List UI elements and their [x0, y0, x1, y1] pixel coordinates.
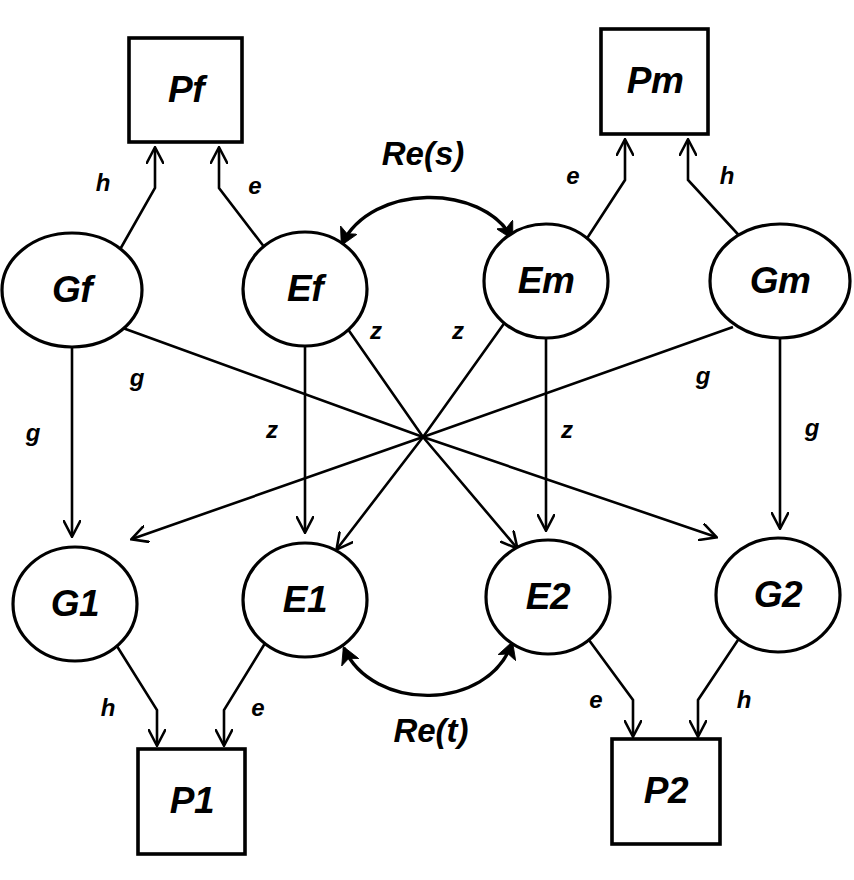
node-em-label: Em [518, 260, 575, 301]
edge-g2-p2 [698, 634, 742, 736]
node-pm[interactable]: Pm [601, 29, 708, 134]
path-label-e-em-pm: e [566, 162, 579, 189]
path-label-z-ef-e1: z [265, 416, 278, 443]
path-label-g-gm-g2: g [804, 414, 820, 441]
node-p1[interactable]: P1 [138, 749, 245, 854]
path-label-h-gm-pm: h [720, 162, 735, 189]
node-e1[interactable]: E1 [243, 543, 367, 657]
node-p2-label: P2 [644, 770, 689, 811]
node-pm-label: Pm [627, 60, 684, 101]
node-ef[interactable]: Ef [243, 232, 367, 346]
path-label-e-e2-p2: e [589, 686, 602, 713]
correlation-label-re-s: Re(s) [382, 135, 465, 172]
node-g2-label: G2 [754, 574, 803, 615]
edge-gm-pm [688, 140, 746, 243]
node-ef-label: Ef [287, 268, 327, 309]
path-label-h-gf-pf: h [96, 169, 111, 196]
node-p2[interactable]: P2 [612, 739, 720, 844]
path-label-g-gf-g2: g [129, 364, 145, 391]
correlation-label-re-t: Re(t) [393, 712, 468, 749]
path-label-h-g2-p2: h [737, 686, 752, 713]
edge-gm-g1 [132, 327, 733, 539]
node-em[interactable]: Em [484, 224, 608, 338]
path-label-z-ef-e2: z [369, 317, 382, 344]
node-gm[interactable]: Gm [710, 224, 850, 338]
edge-em-pm [584, 140, 625, 243]
node-gf-label: Gf [52, 269, 96, 310]
edge-ef-e2 [345, 325, 517, 548]
path-label-e-e1-p1: e [251, 694, 264, 721]
node-pf-label: Pf [168, 69, 208, 110]
path-diagram-svg: Pf Pm Gf Ef Em Gm G1 [0, 0, 854, 880]
node-gm-label: Gm [750, 260, 811, 301]
path-label-g-gf-g1: g [25, 419, 41, 446]
edge-e1-p1 [224, 640, 267, 745]
node-p1-label: P1 [170, 780, 214, 821]
edge-ef-pf [219, 148, 268, 252]
path-diagram-canvas: Pf Pm Gf Ef Em Gm G1 [0, 0, 854, 880]
node-gf[interactable]: Gf [2, 233, 142, 347]
path-label-g-gm-g1: g [695, 362, 711, 389]
correlation-curve-re-t [344, 643, 512, 695]
node-g1-label: G1 [51, 583, 99, 624]
node-e2-label: E2 [526, 576, 571, 617]
path-label-e-ef-pf: e [248, 172, 261, 199]
path-label-h-g1-p1: h [101, 694, 116, 721]
node-g2[interactable]: G2 [716, 538, 840, 652]
node-e2[interactable]: E2 [486, 540, 610, 654]
node-g1[interactable]: G1 [13, 547, 137, 661]
path-label-z-em-e1: z [451, 317, 464, 344]
edge-g1-p1 [115, 643, 157, 745]
correlation-curve-re-s [342, 197, 512, 244]
edge-gf-pf [118, 148, 155, 253]
path-label-z-em-e2: z [560, 416, 573, 443]
edge-em-e1 [337, 318, 508, 549]
node-e1-label: E1 [283, 579, 327, 620]
node-pf[interactable]: Pf [129, 38, 242, 142]
